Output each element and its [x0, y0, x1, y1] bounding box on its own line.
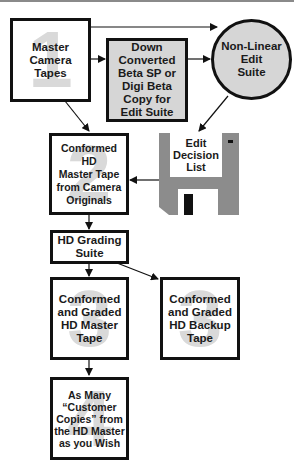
node-label: Conformed and Graded HD Backup Tape — [168, 293, 232, 345]
node-conformed-hd-master: 2 Conformed HD Master Tape from Camera O… — [49, 133, 129, 215]
node-edit-decision-list: Edit Decision List — [159, 133, 239, 215]
floppy-label-area: Edit Decision List — [170, 133, 222, 177]
write-protect-notch — [228, 140, 233, 143]
node-label: As Many “Customer Copies” from the HD Ma… — [54, 389, 125, 449]
edge-tapes-to-conform — [65, 101, 89, 131]
edge-nle-to-edl — [199, 96, 228, 131]
node-label: Edit Decision List — [173, 137, 219, 173]
node-label: Master Camera Tapes — [29, 41, 71, 80]
node-graded-hd-backup: 3 Conformed and Graded HD Backup Tape — [160, 277, 240, 360]
node-down-converted-copy: Down Converted Beta SP or Digi Beta Copy… — [106, 38, 188, 122]
floppy-shutter-hole — [184, 194, 193, 215]
node-customer-copies: 4 As Many “Customer Copies” from the HD … — [50, 377, 129, 460]
node-master-camera-tapes: 1 Master Camera Tapes — [10, 18, 91, 102]
node-graded-hd-master: 3 Conformed and Graded HD Master Tape — [50, 277, 129, 360]
node-non-linear-edit-suite: Non-Linear Edit Suite — [211, 19, 292, 100]
node-label: HD Grading Suite — [58, 234, 122, 260]
node-label: Non-Linear Edit Suite — [221, 40, 282, 79]
node-label: Conformed and Graded HD Master Tape — [58, 293, 122, 345]
node-label: Conformed HD Master Tape from Camera Ori… — [52, 142, 126, 207]
node-hd-grading-suite: HD Grading Suite — [50, 230, 129, 264]
node-label: Down Converted Beta SP or Digi Beta Copy… — [118, 41, 176, 119]
